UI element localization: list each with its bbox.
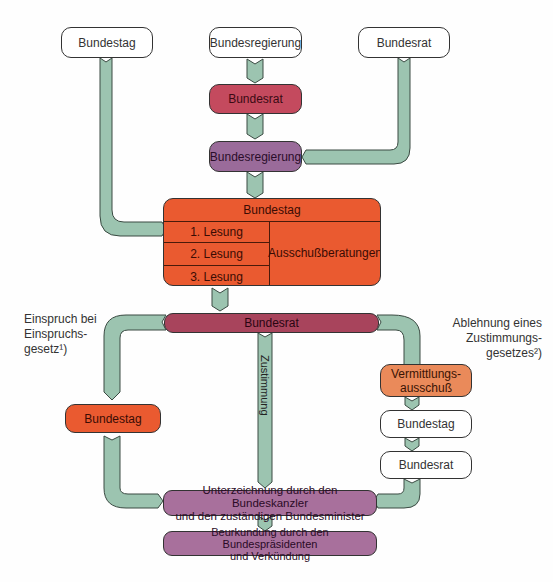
box-bundestag-readings: Bundestag 1. Lesung 2. Lesung 3. Lesung … (163, 198, 381, 286)
label-line: und Verkündung (230, 550, 310, 562)
box-vermittlungsausschuss: Vermittlungs- ausschuß (380, 364, 472, 397)
note-line: Zustimmungs- (438, 331, 542, 346)
label: Bundesrat (377, 36, 432, 50)
label-line: und den zuständigen Bundesminister (175, 510, 364, 523)
reading-1: 1. Lesung (164, 221, 270, 243)
label: Bundesrat (244, 316, 299, 330)
note-line: Einspruch bei (24, 312, 97, 327)
box-promulgation: Beurkundung durch den Bundespräsidenten … (163, 531, 377, 556)
label: Bundestag (397, 417, 454, 431)
arrow-bundestag-to-block (100, 58, 166, 236)
box-bundestag-top: Bundestag (61, 27, 153, 58)
box-bundestag-left: Bundestag (65, 404, 161, 433)
committee-deliberations: Ausschußberatungen (270, 221, 380, 285)
box-bundestag-right: Bundestag (380, 410, 472, 438)
box-bundesrat-right: Bundesrat (380, 451, 472, 479)
label-line: Unterzeichnung durch den Bundeskanzler (164, 484, 376, 510)
box-bundesregierung-top: Bundesregierung (209, 27, 302, 58)
reading-2: 2. Lesung (164, 243, 270, 266)
box-bundesrat-top: Bundesrat (358, 27, 450, 58)
note-line: gesetzes²) (438, 346, 542, 361)
box-signing: Unterzeichnung durch den Bundeskanzler u… (163, 490, 377, 516)
label-line: Vermittlungs- (391, 367, 461, 381)
label: Bundestag (78, 36, 135, 50)
reading-3: 3. Lesung (164, 266, 270, 286)
box-bundesrat-decision: Bundesrat (164, 313, 379, 333)
label-zustimmung: Zustimmung (258, 350, 272, 420)
note-line: gesetz¹) (24, 342, 97, 357)
label: Bundesregierung (210, 36, 301, 50)
label: Bundestag (84, 412, 141, 426)
label-line: Beurkundung durch den Bundespräsidenten (164, 526, 376, 550)
label: Bundesrat (228, 92, 283, 106)
bundestag-title: Bundestag (164, 199, 380, 222)
box-bundesregierung-second: Bundesregierung (209, 141, 302, 172)
note-line: Einspruchs- (24, 327, 97, 342)
note-ablehnung: Ablehnung eines Zustimmungs- gesetzes²) (438, 316, 542, 361)
label: Bundesrat (399, 458, 454, 472)
label: Bundesregierung (210, 150, 301, 164)
note-line: Ablehnung eines (438, 316, 542, 331)
box-bundesrat-first: Bundesrat (209, 84, 302, 114)
label-line: ausschuß (400, 381, 452, 395)
note-einspruch: Einspruch bei Einspruchs- gesetz¹) (24, 312, 97, 357)
